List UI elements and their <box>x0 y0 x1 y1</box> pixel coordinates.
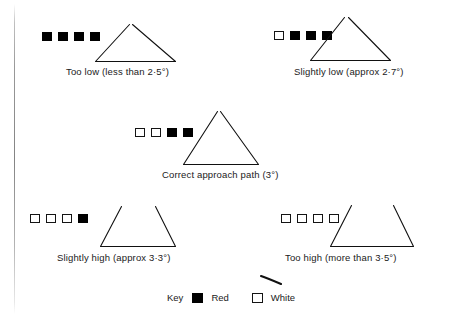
caption-too-high: Too high (more than 3·5°) <box>285 252 397 263</box>
runway-trapezoid-too-high <box>245 190 457 285</box>
panel-too-low: Too low (less than 2·5°) <box>0 0 220 90</box>
caption-too-low: Too low (less than 2·5°) <box>66 66 169 77</box>
caption-slightly-low: Slightly low (approx 2·7°) <box>294 66 404 77</box>
panel-too-high: Too high (more than 3·5°) <box>245 190 457 285</box>
stray-pen-mark <box>258 272 288 288</box>
panel-slightly-low: Slightly low (approx 2·7°) <box>232 0 457 90</box>
runway-trapezoid-slightly-high <box>0 190 225 285</box>
legend-key: Key Red White <box>167 292 304 303</box>
caption-slightly-high: Slightly high (approx 3·3°) <box>57 252 170 263</box>
caption-correct-approach: Correct approach path (3°) <box>162 169 278 180</box>
legend-swatch-red <box>192 293 203 303</box>
panel-slightly-high: Slightly high (approx 3·3°) <box>0 190 225 285</box>
legend-title: Key <box>167 292 183 303</box>
legend-swatch-white <box>252 293 263 303</box>
legend-label-red: Red <box>211 292 228 303</box>
papi-approach-path-figure: Too low (less than 2·5°) Slightly low (a… <box>0 0 457 321</box>
legend-label-white: White <box>271 292 295 303</box>
panel-correct-approach: Correct approach path (3°) <box>110 100 340 190</box>
